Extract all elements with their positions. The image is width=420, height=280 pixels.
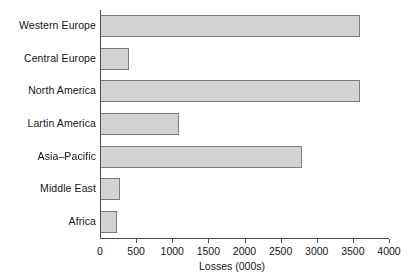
tick-label: 4000 [377, 245, 400, 257]
tick-label: 2500 [269, 245, 292, 257]
bar-asia-pacific [100, 146, 302, 168]
category-label: Lartin America [27, 117, 96, 129]
bar-africa [100, 211, 117, 233]
tick-mark [245, 239, 246, 243]
category-label: Middle East [40, 182, 96, 194]
bar-north-america [100, 80, 360, 102]
tick-mark [172, 239, 173, 243]
category-label: Africa [69, 215, 96, 227]
tick-mark [281, 239, 282, 243]
tick-label: 1500 [197, 245, 220, 257]
bar-central-europe [100, 48, 129, 70]
tick-label: 3500 [341, 245, 364, 257]
category-axis-labels: Western EuropeCentral EuropeNorth Americ… [0, 0, 96, 240]
tick-mark [389, 239, 390, 243]
category-label: North America [28, 84, 96, 96]
tick-label: 500 [127, 245, 145, 257]
bar-middle-east [100, 178, 120, 200]
category-label: Western Europe [19, 19, 96, 31]
bar-chart: Western EuropeCentral EuropeNorth Americ… [0, 0, 420, 280]
category-label: Asia–Pacific [38, 150, 96, 162]
bar-lartin-america [100, 113, 179, 135]
x-axis-title-text: Losses (000s) [199, 260, 265, 272]
tick-label: 2000 [233, 245, 256, 257]
tick-mark [208, 239, 209, 243]
tick-label: 0 [97, 245, 103, 257]
y-axis-line [100, 10, 101, 239]
tick-mark [136, 239, 137, 243]
category-label: Central Europe [24, 52, 96, 64]
plot-area [100, 10, 400, 238]
tick-mark [317, 239, 318, 243]
x-axis-title: Losses (000s) [0, 260, 420, 272]
tick-label: 1000 [161, 245, 184, 257]
bar-western-europe [100, 15, 360, 37]
tick-mark [353, 239, 354, 243]
tick-label: 3000 [305, 245, 328, 257]
